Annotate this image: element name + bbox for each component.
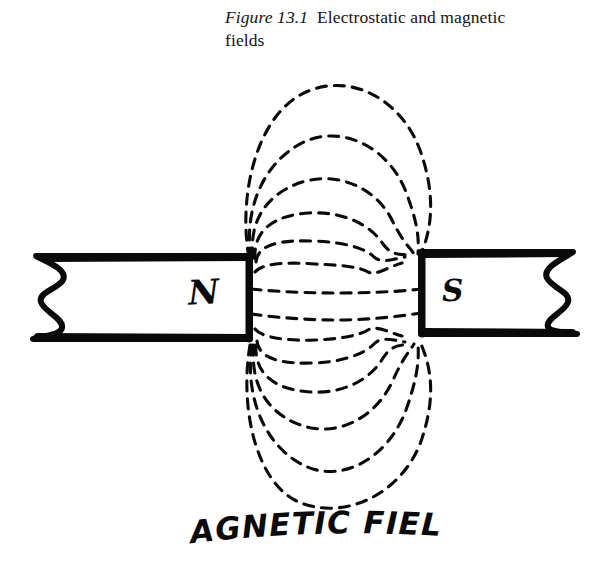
field-line-lower-2 — [250, 344, 418, 472]
field-line-upper-2 — [249, 136, 418, 258]
field-lines-group — [246, 85, 431, 508]
south-pole-label: S — [441, 276, 464, 307]
field-line-gap-2 — [251, 313, 421, 320]
field-line-lower-1 — [247, 344, 431, 508]
field-line-lower-4 — [256, 344, 409, 392]
magnet-right-top-rule — [423, 253, 568, 254]
magnetic-field-diagram — [0, 0, 608, 588]
figure-root: Figure 13.1 Electrostatic and magnetic f… — [0, 0, 608, 588]
north-pole-label: N — [187, 274, 220, 310]
field-line-upper-1 — [246, 85, 431, 258]
field-line-upper-4 — [255, 213, 409, 259]
magnet-left-bottom-rule — [38, 337, 248, 338]
field-line-upper-3 — [252, 179, 414, 258]
field-line-lower-3 — [253, 344, 414, 429]
field-line-lower-6 — [255, 328, 402, 340]
field-line-upper-6 — [255, 263, 402, 273]
field-line-gap-1 — [251, 289, 421, 293]
magnet-right-bottom-rule — [423, 332, 572, 333]
magnet-left-top-rule — [44, 257, 248, 258]
